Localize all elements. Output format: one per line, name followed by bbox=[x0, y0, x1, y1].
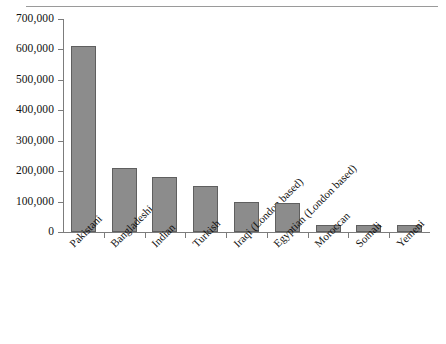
x-axis-category-label: Somali bbox=[353, 219, 384, 250]
x-axis-tick bbox=[145, 233, 146, 238]
y-axis-tick bbox=[58, 141, 63, 142]
x-axis-tick bbox=[104, 233, 105, 238]
y-axis-tick-label: 600,000 bbox=[16, 43, 54, 55]
x-axis-category-label: Yemeni bbox=[394, 217, 426, 249]
x-axis-tick bbox=[348, 233, 349, 238]
y-axis-tick-label: 200,000 bbox=[16, 165, 54, 177]
x-axis-tick bbox=[267, 233, 268, 238]
y-axis-tick-label: 500,000 bbox=[16, 74, 54, 86]
x-axis-tick bbox=[226, 233, 227, 238]
y-axis-tick bbox=[58, 171, 63, 172]
bar bbox=[71, 46, 96, 232]
bar-chart-plot-area: 0100,000200,000300,000400,000500,000600,… bbox=[0, 0, 446, 344]
y-axis-tick-label: 700,000 bbox=[16, 13, 54, 25]
y-axis-line bbox=[63, 19, 64, 233]
x-axis-tick bbox=[389, 233, 390, 238]
y-axis-tick bbox=[58, 232, 63, 233]
y-axis-tick-label: 300,000 bbox=[16, 135, 54, 147]
y-axis-tick-label: 400,000 bbox=[16, 104, 54, 116]
y-axis-tick-label: 0 bbox=[48, 226, 54, 238]
y-axis-tick bbox=[58, 19, 63, 20]
x-axis-tick bbox=[185, 233, 186, 238]
y-axis-tick bbox=[58, 49, 63, 50]
y-axis-tick-label: 100,000 bbox=[16, 196, 54, 208]
y-axis-tick bbox=[58, 202, 63, 203]
y-axis-tick bbox=[58, 110, 63, 111]
y-axis-tick bbox=[58, 80, 63, 81]
x-axis-tick bbox=[308, 233, 309, 238]
figure: 0100,000200,000300,000400,000500,000600,… bbox=[0, 0, 446, 344]
